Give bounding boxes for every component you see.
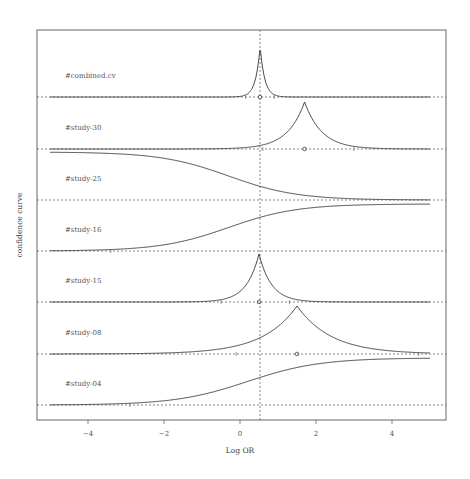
x-axis: −4−2024: [83, 420, 395, 438]
series-label: #combined.cv: [65, 72, 116, 80]
confidence-curve: [50, 254, 430, 302]
series-label: #study-25: [65, 175, 102, 183]
curve-row: #study-08: [37, 306, 446, 356]
curve-row: #study-25: [37, 152, 446, 200]
x-tick-label: 0: [238, 430, 242, 438]
x-tick-label: 2: [314, 430, 318, 438]
confidence-curve: [50, 358, 430, 405]
series-label: #study-16: [65, 226, 102, 234]
curve-row: #combined.cv: [37, 51, 446, 99]
series-label: #study-08: [65, 329, 102, 337]
y-axis-label: confidence curve: [15, 192, 24, 257]
confidence-curve: [50, 152, 430, 200]
series-label: #study-30: [65, 124, 102, 132]
curve-row: #study-16: [37, 204, 446, 253]
confidence-curve-chart: #combined.cv#study-30#study-25#study-16#…: [0, 0, 470, 479]
confidence-curve: [50, 204, 430, 251]
x-tick-label: −4: [83, 430, 94, 438]
series-label: #study-15: [65, 277, 102, 285]
curve-row: #study-30: [37, 102, 446, 151]
x-tick-label: 4: [390, 430, 395, 438]
curve-row: #study-15: [37, 254, 446, 304]
curve-row: #study-04: [37, 358, 446, 407]
x-axis-label: Log OR: [226, 446, 255, 455]
confidence-curve: [50, 306, 430, 354]
series-label: #study-04: [65, 380, 102, 388]
plot-frame: [37, 30, 446, 420]
x-tick-label: −2: [159, 430, 169, 438]
confidence-curve: [50, 102, 430, 149]
